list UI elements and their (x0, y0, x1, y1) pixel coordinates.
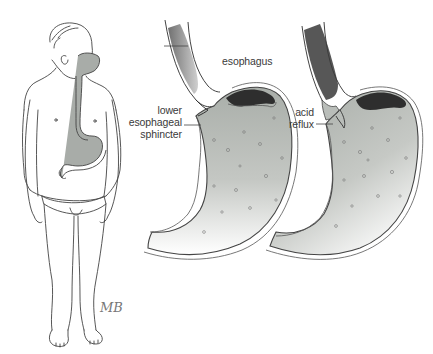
illustration-canvas: esophagus lower esophageal sphincter aci… (0, 0, 433, 354)
esophagus-label: esophagus (222, 55, 272, 67)
artist-signature: MB (100, 300, 123, 315)
sphincter-label-line-2: esophageal (120, 116, 182, 128)
sphincter-label: lower esophageal sphincter (120, 104, 182, 140)
person-digestive-tract (59, 53, 106, 179)
acid-reflux-label: acid reflux (282, 106, 314, 130)
sphincter-label-line-1: lower (120, 104, 182, 116)
person-figure (23, 23, 121, 347)
reflux-label-line-2: reflux (282, 118, 314, 130)
reflux-label-line-1: acid (282, 106, 314, 118)
illustration-artwork (0, 0, 433, 354)
sphincter-label-line-3: sphincter (120, 128, 182, 140)
